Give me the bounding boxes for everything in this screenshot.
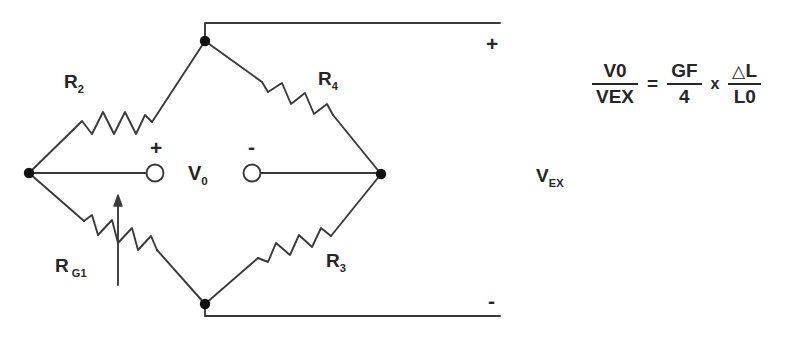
wire-r4-to-right (333, 115, 381, 174)
label-vo-plus: + (150, 137, 162, 158)
equation-term2-fraction: △L L0 (728, 60, 761, 108)
equation-term1-denominator: 4 (675, 86, 694, 108)
equation-multiply-sign: x (711, 75, 720, 93)
equation-lhs-num-sub: 0 (616, 60, 627, 81)
label-supply-minus: - (488, 290, 495, 311)
label-r2: R2 (64, 72, 84, 95)
label-vo-minus: - (248, 136, 255, 157)
wire-r3-to-right (331, 174, 381, 236)
variable-arrow-head (114, 195, 122, 206)
resistor-r2-zigzag (74, 112, 152, 134)
circuit-schematic-svg (0, 0, 788, 339)
node-bottom (200, 299, 210, 309)
equation-term1-numerator: GF (667, 60, 701, 82)
node-top (200, 36, 210, 46)
equation-term2-den-sub: 0 (745, 86, 756, 107)
wire-r2-to-top (152, 41, 205, 122)
label-r4-text: R (318, 68, 332, 89)
equation-equals-sign: = (647, 73, 658, 95)
equation-term2-denominator: L0 (730, 86, 760, 108)
label-r2-text: R (64, 71, 78, 92)
wire-left-to-r2 (29, 129, 74, 173)
label-vex: VEX (536, 166, 564, 189)
equation-lhs-den-sub: EX (609, 86, 634, 107)
label-rg1: RG1 (55, 256, 87, 279)
wire-left-to-rg1 (29, 173, 84, 221)
equation-lhs-bar (592, 83, 638, 85)
equation-lhs-denominator: VEX (592, 86, 638, 108)
strain-equation: V0 VEX = GF 4 x △L L0 (592, 60, 761, 108)
wire-rg1-to-bottom (157, 250, 205, 304)
label-r3: R3 (326, 251, 346, 274)
label-vo: V0 (188, 163, 208, 187)
equation-term1-fraction: GF 4 (667, 60, 701, 108)
wire-top-supply (205, 23, 500, 41)
label-vo-subscript: 0 (201, 174, 208, 187)
circuit-diagram: R2 R4 R3 RG1 + - V0 + - VEX V0 VEX (0, 0, 788, 339)
equation-term2-bar (728, 83, 761, 85)
wire-top-to-r4 (205, 41, 262, 82)
label-r3-subscript: 3 (340, 262, 346, 274)
equation-term1-bar (667, 83, 701, 85)
wire-bottom-supply (205, 304, 500, 316)
wire-bottom-to-r3 (205, 258, 258, 304)
node-right (376, 169, 386, 179)
equation-lhs-num-text: V (603, 60, 616, 81)
equation-term2-den-text: L (734, 86, 746, 107)
label-vex-text: V (536, 165, 549, 186)
equation-lhs-numerator: V0 (599, 60, 630, 82)
label-r4: R4 (318, 69, 338, 92)
vo-minus-terminal-circle (244, 165, 261, 182)
equation-term2-num-text: L (745, 60, 757, 81)
label-rg1-text: R (55, 255, 69, 276)
equation-lhs-den-text: V (596, 86, 609, 107)
label-supply-plus: + (486, 33, 498, 54)
label-rg1-subscript: G1 (72, 267, 87, 279)
label-vo-text: V (188, 162, 201, 184)
resistor-rg1-zigzag (84, 215, 157, 250)
label-r2-subscript: 2 (78, 83, 84, 95)
node-left (24, 168, 34, 178)
resistor-r3-zigzag (258, 228, 331, 262)
label-r4-subscript: 4 (332, 80, 338, 92)
delta-icon: △ (732, 62, 745, 81)
vo-plus-terminal-circle (147, 165, 164, 182)
equation-term2-numerator: △L (728, 60, 761, 82)
equation-lhs-fraction: V0 VEX (592, 60, 638, 108)
label-r3-text: R (326, 250, 340, 271)
label-vex-subscript: EX (549, 177, 564, 189)
